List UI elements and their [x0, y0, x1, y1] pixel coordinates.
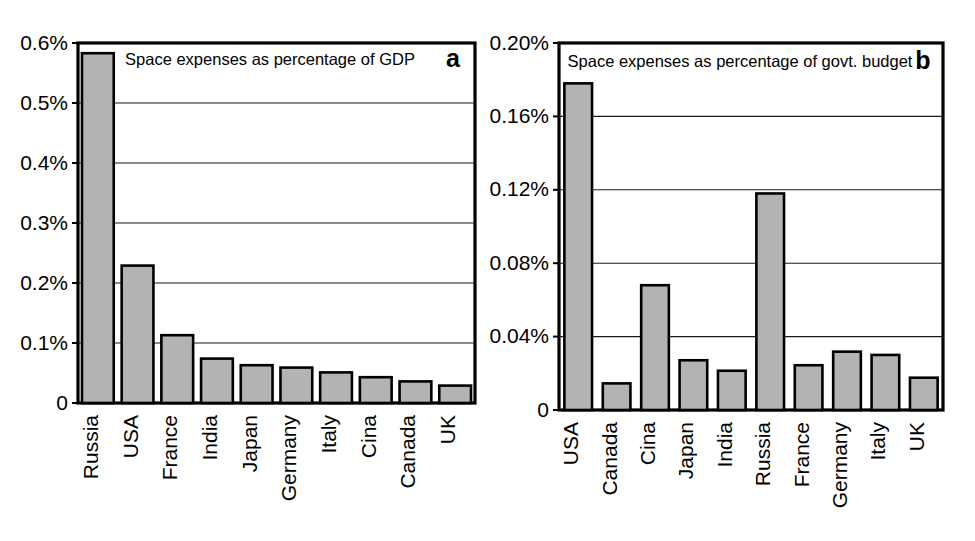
y-axis-tick-label: 0: [56, 391, 68, 414]
x-axis-category-label: Canada: [396, 415, 419, 489]
x-axis-category-label: UK: [905, 422, 928, 451]
bar-cina: [641, 285, 669, 410]
y-axis-tick-label: 0.4%: [20, 151, 68, 174]
bar-japan: [680, 360, 708, 410]
y-axis-tick-label: 0.1%: [20, 331, 68, 354]
panel-letter-a: a: [446, 44, 461, 72]
x-axis-category-label: France: [158, 415, 181, 480]
x-axis-category-label: India: [713, 422, 736, 468]
bar-canada: [603, 383, 631, 410]
bar-italy: [320, 372, 352, 403]
bar-germany: [280, 368, 312, 403]
bar-japan: [241, 365, 273, 403]
chart-title: Space expenses as percentage of govt. bu…: [568, 52, 913, 70]
x-axis-category-label: Canada: [598, 422, 621, 496]
bar-india: [201, 359, 233, 403]
y-axis-tick-label: 0.3%: [20, 211, 68, 234]
chart-title: Space expenses as percentage of GDP: [125, 50, 415, 68]
x-axis-category-label: Japan: [674, 422, 697, 479]
x-axis-category-label: Germany: [277, 415, 300, 502]
x-axis-category-label: Italy: [866, 422, 889, 461]
bar-russia: [756, 193, 784, 410]
x-axis-category-label: Russia: [79, 415, 102, 480]
y-axis-tick-label: 0.20%: [489, 31, 549, 54]
y-axis-tick-label: 0.6%: [20, 31, 68, 54]
x-axis-category-label: Italy: [317, 415, 340, 454]
x-axis-category-label: USA: [119, 415, 142, 458]
y-axis-tick-label: 0.08%: [489, 251, 549, 274]
bar-chart-b: 00.04%0.08%0.12%0.16%0.20%USACanadaCinaJ…: [485, 0, 975, 541]
chart-panel-a: 00.1%0.2%0.3%0.4%0.5%0.6%RussiaUSAFrance…: [0, 0, 490, 541]
x-axis-category-label: Cina: [636, 422, 659, 466]
x-axis-category-label: UK: [436, 415, 459, 444]
x-axis-category-label: USA: [559, 422, 582, 465]
chart-panel-b: 00.04%0.08%0.12%0.16%0.20%USACanadaCinaJ…: [485, 0, 975, 541]
y-axis-tick-label: 0.12%: [489, 177, 549, 200]
y-axis-tick-label: 0: [537, 398, 549, 421]
bar-uk: [910, 378, 938, 410]
x-axis-category-label: Russia: [751, 422, 774, 487]
bar-chart-a: 00.1%0.2%0.3%0.4%0.5%0.6%RussiaUSAFrance…: [0, 0, 490, 541]
x-axis-category-label: India: [198, 415, 221, 461]
y-axis-tick-label: 0.04%: [489, 324, 549, 347]
x-axis-category-label: Japan: [238, 415, 261, 472]
bar-cina: [360, 377, 392, 403]
figure-two-panel-bar-charts: 00.1%0.2%0.3%0.4%0.5%0.6%RussiaUSAFrance…: [0, 0, 975, 541]
bar-india: [718, 371, 746, 410]
x-axis-category-label: Germany: [828, 422, 851, 509]
bar-france: [795, 365, 823, 410]
panel-letter-b: b: [915, 46, 930, 74]
bar-russia: [82, 53, 114, 403]
bar-italy: [872, 355, 900, 410]
x-axis-category-label: Cina: [357, 415, 380, 459]
y-axis-tick-label: 0.2%: [20, 271, 68, 294]
bar-uk: [439, 386, 471, 403]
bar-france: [161, 335, 193, 403]
x-axis-category-label: France: [790, 422, 813, 487]
bar-canada: [400, 381, 432, 403]
y-axis-tick-label: 0.5%: [20, 91, 68, 114]
bar-usa: [122, 266, 154, 403]
bar-usa: [564, 83, 592, 410]
bar-germany: [833, 352, 861, 410]
y-axis-tick-label: 0.16%: [489, 104, 549, 127]
